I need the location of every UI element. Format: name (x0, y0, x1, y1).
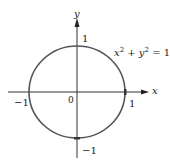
tick-label-y-neg: −1 (82, 146, 97, 156)
unit-circle-diagram (0, 0, 170, 164)
y-axis-arrow-icon (75, 18, 80, 27)
circle-equation: x2 + y2 = 1 (114, 47, 170, 58)
tick-mark-bottom (74, 137, 80, 140)
x-axis-label: x (152, 86, 158, 96)
tick-label-x-neg: −1 (14, 98, 29, 108)
tick-label-x-pos: 1 (129, 99, 135, 109)
x-axis-arrow-icon (141, 90, 149, 95)
y-axis-label: y (74, 9, 80, 19)
tick-label-y-pos: 1 (82, 34, 88, 44)
origin-label: 0 (68, 96, 74, 105)
tick-mark-right (124, 89, 127, 95)
